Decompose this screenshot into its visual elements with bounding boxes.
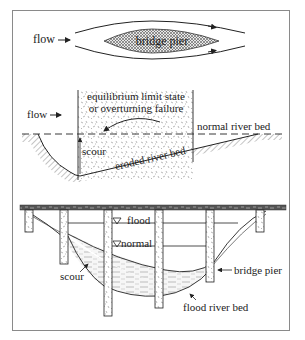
bridge-pier-2	[60, 210, 68, 264]
streamline-lower-arrow	[208, 51, 216, 53]
ground-hatch-left	[22, 134, 80, 182]
flow-label-top: flow	[33, 32, 55, 46]
failure-label-line1: equilibrium limit state	[87, 90, 185, 102]
bridge-pier-4	[155, 210, 163, 308]
scour-label-middle: scour	[82, 145, 106, 157]
panel-top-plan-view: flow bridge pier	[33, 21, 245, 59]
flow-label-middle: flow	[27, 108, 47, 120]
flood-river-bed-label: flood river bed	[183, 301, 249, 313]
bank-left-inner	[30, 215, 60, 232]
bridge-pier-label-bottom: bridge pier	[234, 264, 282, 276]
failure-label-line2: or overturning failure	[89, 102, 184, 114]
bridge-scour-diagram: flow bridge pier flow equilibrium limit …	[0, 0, 305, 340]
flood-river-bed-pointer-arrow	[190, 294, 196, 300]
bridge-pier-6	[256, 210, 264, 232]
panel-bottom-elevation: flood normal scour bridge pier flood riv…	[20, 205, 286, 316]
bridge-pier-5	[206, 210, 214, 282]
bridge-pier-1	[25, 210, 33, 232]
normal-river-bed-label: normal river bed	[197, 120, 271, 132]
bridge-deck	[20, 205, 286, 210]
panel-middle-scour-section: flow equilibrium limit state or overturn…	[22, 90, 282, 182]
normal-label: normal	[121, 237, 152, 249]
bridge-pier-label-top: bridge pier	[136, 34, 188, 48]
flood-label: flood	[127, 214, 151, 226]
bridge-pier-3	[104, 210, 112, 316]
